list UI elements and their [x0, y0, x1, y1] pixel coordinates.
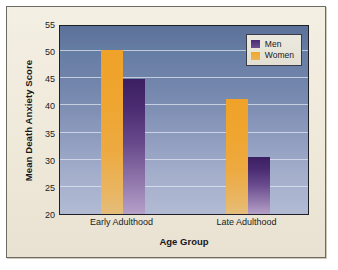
- gridline: [60, 104, 308, 105]
- gridline: [60, 159, 308, 160]
- bar-men-late-adulthood: [248, 157, 270, 214]
- bar-women-early-adulthood: [101, 50, 123, 214]
- x-axis-title: Age Group: [59, 236, 309, 247]
- y-tick-label: 30: [45, 156, 55, 165]
- gridline: [60, 77, 308, 78]
- legend-label-women: Women: [265, 51, 294, 60]
- y-tick-label: 40: [45, 102, 55, 111]
- y-tick-label: 55: [45, 21, 55, 30]
- legend-label-men: Men: [265, 40, 282, 49]
- y-axis-title-text: Mean Death Anxiety Score: [24, 59, 35, 180]
- bar-men-early-adulthood: [123, 79, 145, 214]
- gridline: [60, 132, 308, 133]
- legend-item-women: Women: [251, 50, 294, 61]
- y-axis-ticks: 2025303540455055: [35, 25, 57, 215]
- y-tick-label: 20: [45, 211, 55, 220]
- x-axis-ticks: Early AdulthoodLate Adulthood: [59, 218, 309, 232]
- legend-swatch-men-icon: [251, 40, 260, 48]
- y-tick-label: 35: [45, 129, 55, 138]
- legend: Men Women: [246, 34, 302, 66]
- y-tick-label: 25: [45, 183, 55, 192]
- bar-women-late-adulthood: [226, 99, 248, 214]
- x-tick-label: Late Adulthood: [216, 218, 276, 227]
- legend-item-men: Men: [251, 39, 294, 50]
- y-tick-label: 50: [45, 48, 55, 57]
- x-tick-label: Early Adulthood: [90, 218, 153, 227]
- plot-area: Men Women: [59, 25, 309, 215]
- legend-swatch-women-icon: [251, 52, 260, 60]
- gridline: [60, 186, 308, 187]
- chart-figure: Mean Death Anxiety Score 202530354045505…: [6, 6, 326, 258]
- y-tick-label: 45: [45, 75, 55, 84]
